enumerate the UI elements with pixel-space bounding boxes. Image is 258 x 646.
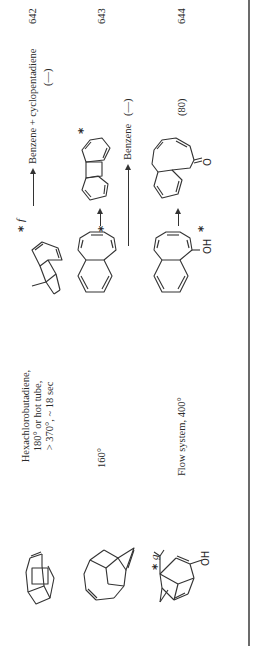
- carbonyl-oxygen-label: O: [202, 158, 213, 166]
- asterisk-marker: *: [16, 226, 30, 232]
- hydroxyl-label: OH: [202, 239, 213, 254]
- arrow-head-icon: [30, 168, 36, 174]
- reaction-arrow: [178, 212, 179, 226]
- table-bottom-rule: [248, 0, 250, 646]
- footnote-f: f: [14, 219, 26, 222]
- condition-line: 180° or hot tube,: [32, 356, 44, 476]
- condition-line: > 370°, ~ 18 sec: [44, 356, 56, 476]
- hydroxyl-label: OH: [200, 551, 211, 566]
- benzocyclooctatetraene-structure: [76, 228, 134, 298]
- conditions-row-1: Hexachlorobutadiene, 180° or hot tube, >…: [20, 356, 56, 476]
- reaction-arrow: [33, 172, 34, 206]
- starting-cage-structure-3: [150, 534, 210, 614]
- starting-cage-structure-2: [78, 542, 140, 608]
- intermediate-structure-f: [18, 236, 68, 296]
- starting-cage-structure-1: [22, 546, 62, 606]
- arrow-head-icon: [175, 208, 181, 214]
- asterisk-marker: *: [96, 226, 110, 232]
- asterisk-marker: *: [76, 128, 90, 134]
- conditions-row-3: Flow system, 400°: [176, 397, 188, 476]
- reference-row-1: 642: [27, 8, 39, 24]
- asterisk-marker: *: [196, 226, 210, 232]
- rotated-table-page: Hexachlorobutadiene, 180° or hot tube, >…: [0, 0, 258, 646]
- yield-row-2: (—): [122, 99, 134, 117]
- yield-row-3: (80): [176, 99, 188, 117]
- reference-row-3: 644: [176, 8, 188, 24]
- products-row-1: Benzene + cyclopentadiene: [27, 48, 39, 164]
- hydroxy-benzocyclooctatetraene-structure: [150, 226, 210, 298]
- arrow-head-icon: [97, 208, 103, 214]
- products-row-2: Benzene: [122, 124, 134, 160]
- condition-line: Hexachlorobutadiene,: [20, 356, 32, 476]
- biphenylene-structure: [80, 132, 114, 202]
- yield-row-1: (—): [42, 69, 54, 87]
- reaction-arrow: [128, 168, 129, 246]
- arrow-head-icon: [125, 164, 131, 170]
- conditions-row-2: 160°: [96, 448, 108, 468]
- reference-row-2: 643: [96, 8, 108, 24]
- reaction-arrow: [100, 212, 101, 226]
